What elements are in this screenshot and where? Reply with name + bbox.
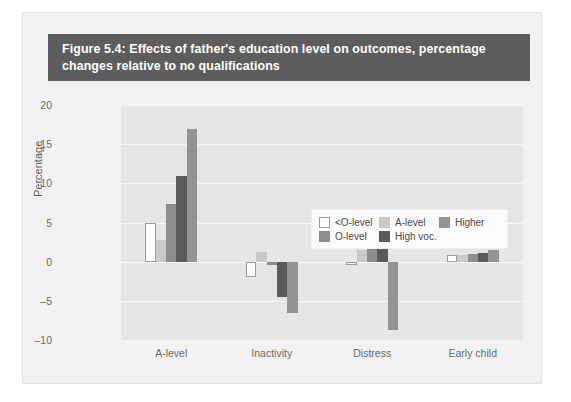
- x-axis-tick-label: Distress: [353, 347, 391, 359]
- legend-item[interactable]: O-level: [319, 231, 379, 242]
- legend-swatch-icon: [319, 231, 330, 242]
- legend-swatch-icon: [379, 217, 390, 228]
- bar: [346, 262, 356, 265]
- bar: [287, 262, 297, 314]
- y-axis-tick-label: 0: [12, 256, 52, 268]
- bar: [145, 223, 155, 262]
- bar: [267, 262, 277, 265]
- gridline: [121, 301, 523, 302]
- bar: [468, 254, 478, 262]
- legend-item[interactable]: High voc.: [379, 231, 439, 242]
- legend-label: High voc.: [395, 231, 437, 242]
- x-axis-tick-label: A-level: [155, 347, 187, 359]
- bar: [166, 204, 176, 261]
- bar: [187, 129, 197, 262]
- bar: [388, 262, 398, 330]
- y-axis-tick-label: 15: [12, 138, 52, 150]
- gridline: [121, 144, 523, 145]
- y-axis-tick-label: –10: [12, 334, 52, 346]
- bar: [176, 176, 186, 262]
- legend-swatch-icon: [379, 231, 390, 242]
- legend-swatch-icon: [439, 217, 450, 228]
- gridline: [121, 105, 523, 106]
- legend-item[interactable]: <O-level: [319, 217, 379, 228]
- y-axis-tick-label: –5: [12, 295, 52, 307]
- figure-title: Figure 5.4: Effects of father's educatio…: [62, 41, 516, 74]
- bar: [277, 262, 287, 297]
- bar: [156, 240, 166, 262]
- bar: [488, 250, 498, 262]
- legend-label: A-level: [395, 217, 426, 228]
- bar: [246, 262, 256, 278]
- bar: [256, 252, 266, 261]
- y-axis-tick-label: 5: [12, 217, 52, 229]
- bar: [447, 255, 457, 262]
- legend-label: O-level: [335, 231, 367, 242]
- x-axis-tick-label: Early child: [449, 347, 497, 359]
- bar: [457, 255, 467, 261]
- legend-label: <O-level: [335, 217, 373, 228]
- bar: [357, 250, 367, 262]
- figure-title-bar: Figure 5.4: Effects of father's educatio…: [48, 34, 530, 81]
- legend-label: Higher: [455, 217, 484, 228]
- figure-panel: Figure 5.4: Effects of father's educatio…: [22, 12, 542, 384]
- bar: [478, 253, 488, 262]
- legend-item[interactable]: Higher: [439, 217, 499, 228]
- x-axis-tick-label: Inactivity: [251, 347, 292, 359]
- legend-item[interactable]: A-level: [379, 217, 439, 228]
- y-axis-tick-label: 10: [12, 177, 52, 189]
- legend-swatch-icon: [319, 217, 330, 228]
- zero-line: [121, 262, 523, 263]
- y-axis-tick-label: 20: [12, 99, 52, 111]
- chart-legend: <O-levelA-levelHigherO-levelHigh voc.: [311, 209, 508, 249]
- chart-plot-wrapper: Percentage <O-levelA-levelHigherO-levelH…: [48, 97, 530, 369]
